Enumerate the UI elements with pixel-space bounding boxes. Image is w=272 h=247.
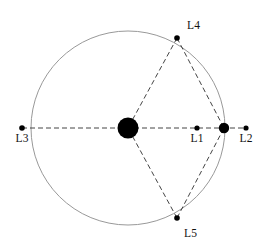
- lagrange-point-l3-marker: [19, 125, 25, 131]
- lagrange-point-l2-marker: [243, 125, 248, 130]
- lagrange-point-l1-marker: [194, 125, 199, 130]
- lagrange-point-l3-label: L3: [15, 132, 28, 144]
- l4-to-secondary-dashed-line: [177, 38, 224, 128]
- diagram-canvas: L1L2L3L4L5: [0, 0, 272, 247]
- lagrange-point-l4-label: L4: [187, 19, 200, 31]
- lagrange-point-l2-label: L2: [239, 132, 252, 144]
- secondary-body: [219, 123, 229, 133]
- lagrange-point-l5-marker: [174, 215, 180, 221]
- lagrange-point-l5-label: L5: [184, 227, 197, 239]
- lagrange-point-l1-label: L1: [190, 132, 203, 144]
- l4-to-primary-dashed-line: [128, 38, 177, 128]
- l5-to-primary-dashed-line: [128, 128, 177, 218]
- lagrange-point-l4-marker: [174, 35, 180, 41]
- primary-body: [118, 118, 139, 139]
- celestial-bodies-group: [118, 118, 230, 139]
- lagrange-points-diagram: L1L2L3L4L5: [0, 0, 272, 247]
